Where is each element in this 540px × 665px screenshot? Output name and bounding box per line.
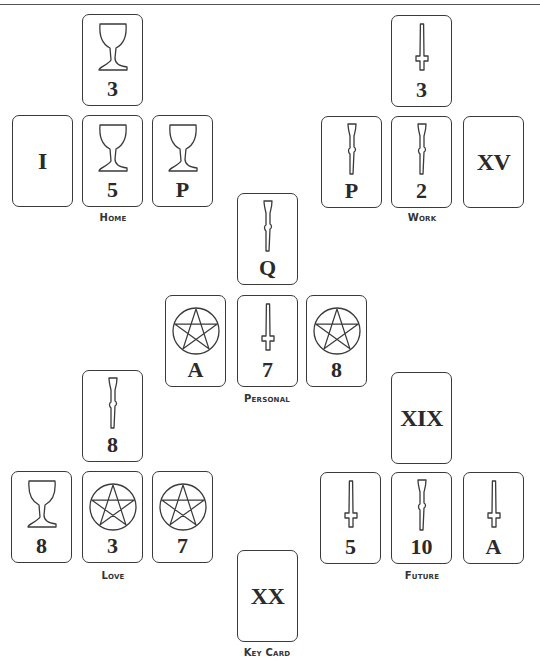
card-future-left[interactable]: 5 (320, 472, 381, 564)
card-personal-top[interactable]: Q (237, 193, 298, 285)
card-love-top[interactable]: 8 (82, 370, 143, 462)
group-label-love: Love (53, 570, 173, 581)
group-label-home: Home (53, 212, 173, 223)
card-value: 10 (392, 536, 451, 558)
card-value: I (13, 150, 72, 172)
card-future-top[interactable]: XIX (391, 372, 452, 464)
cup-icon (153, 122, 212, 180)
card-value: 3 (83, 78, 142, 100)
card-love-left[interactable]: 8 (11, 471, 72, 563)
cup-icon (83, 21, 142, 79)
card-work-left[interactable]: P (321, 116, 382, 208)
card-work-top[interactable]: 3 (391, 15, 452, 107)
card-home-left[interactable]: I (12, 115, 73, 207)
card-personal-left[interactable]: A (165, 295, 226, 387)
card-value: A (166, 359, 225, 381)
card-value: 3 (392, 79, 451, 101)
pentacle-icon (153, 478, 212, 536)
card-future-right[interactable]: A (463, 472, 524, 564)
group-label-work: Work (362, 212, 482, 223)
top-rule (0, 4, 540, 5)
card-value: Q (238, 257, 297, 279)
wand-icon (83, 377, 142, 435)
sword-icon (392, 22, 451, 80)
sword-icon (238, 302, 297, 360)
card-value: P (153, 179, 212, 201)
card-value: A (464, 536, 523, 558)
card-value: 2 (392, 180, 451, 202)
wand-icon (238, 200, 297, 258)
wand-icon (392, 123, 451, 181)
card-personal-right[interactable]: 8 (306, 295, 367, 387)
pentacle-icon (83, 478, 142, 536)
card-value: XV (464, 151, 523, 173)
pentacle-icon (166, 302, 225, 360)
group-label-personal: Personal (207, 393, 327, 404)
card-value: 8 (83, 434, 142, 456)
wand-icon (392, 479, 451, 537)
card-key[interactable]: XX (237, 550, 298, 642)
group-label-future: Future (362, 570, 482, 581)
card-home-top[interactable]: 3 (82, 14, 143, 106)
wand-icon (322, 123, 381, 181)
card-value: 3 (83, 535, 142, 557)
card-personal-center[interactable]: 7 (237, 295, 298, 387)
card-home-center[interactable]: 5 (82, 115, 143, 207)
card-value: 8 (12, 535, 71, 557)
card-value: XIX (392, 407, 451, 429)
sword-icon (321, 479, 380, 537)
card-value: P (322, 180, 381, 202)
card-value: 5 (83, 179, 142, 201)
cup-icon (12, 478, 71, 536)
card-value: 8 (307, 359, 366, 381)
card-home-right[interactable]: P (152, 115, 213, 207)
card-value: 5 (321, 536, 380, 558)
card-work-center[interactable]: 2 (391, 116, 452, 208)
group-label-key-card: Key Card (207, 647, 327, 658)
cup-icon (83, 122, 142, 180)
card-value: 7 (153, 535, 212, 557)
card-value: 7 (238, 359, 297, 381)
card-love-right[interactable]: 7 (152, 471, 213, 563)
pentacle-icon (307, 302, 366, 360)
sword-icon (464, 479, 523, 537)
card-love-center[interactable]: 3 (82, 471, 143, 563)
card-future-center[interactable]: 10 (391, 472, 452, 564)
card-work-right[interactable]: XV (463, 116, 524, 208)
card-value: XX (238, 585, 297, 607)
